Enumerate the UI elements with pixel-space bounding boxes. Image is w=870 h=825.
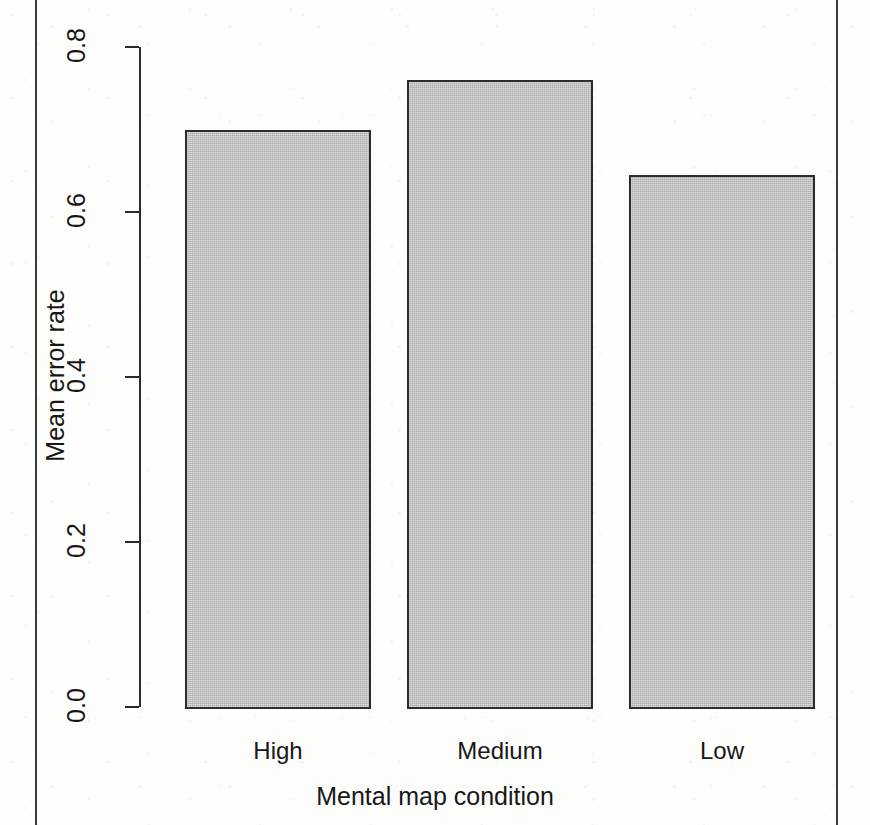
x-axis-title: Mental map condition — [0, 782, 870, 811]
y-axis-title: Mean error rate — [41, 276, 70, 476]
y-axis-line — [139, 47, 141, 707]
y-axis-tick — [125, 376, 139, 378]
bar — [407, 80, 592, 709]
y-axis-tick-label: 0.8 — [62, 11, 91, 81]
y-axis-tick-label: 0.2 — [62, 506, 91, 576]
bar-chart-plot: 0.00.20.40.60.8 HighMediumLow Mean error… — [0, 0, 870, 825]
y-axis-tick — [125, 211, 139, 213]
y-axis-tick-label: 0.6 — [62, 176, 91, 246]
y-axis-tick — [125, 541, 139, 543]
x-axis-tick-label: Medium — [389, 737, 611, 765]
bar — [629, 175, 814, 709]
y-axis-tick — [125, 706, 139, 708]
y-axis-tick — [125, 46, 139, 48]
y-axis-tick-label: 0.0 — [62, 671, 91, 741]
figure-page: 0.00.20.40.60.8 HighMediumLow Mean error… — [0, 0, 870, 825]
bar — [185, 130, 370, 710]
x-axis-tick-label: Low — [611, 737, 833, 765]
page-edge-rule-left — [35, 0, 37, 825]
x-axis-tick-label: High — [167, 737, 389, 765]
page-edge-rule-right — [836, 0, 838, 825]
